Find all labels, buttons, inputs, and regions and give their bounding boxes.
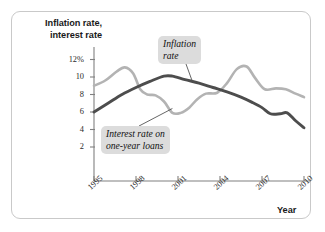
y-tick-label: 8 (54, 90, 84, 99)
y-tick-label: 2 (54, 142, 84, 151)
x-axis-title: Year (277, 205, 296, 215)
y-axis-title-line-1: Inflation rate, (18, 18, 102, 30)
callout-inflation-rate: Inflation rate (158, 36, 201, 64)
series-line-interest-rate (94, 66, 304, 114)
y-tick-label: 6 (54, 107, 84, 116)
y-tick-label: 4 (54, 125, 84, 134)
callout-leader-interest (139, 109, 172, 127)
chart-figure: Inflation rate, interest rate Year 24681… (0, 0, 325, 232)
callout-inflation-line-2: rate (163, 50, 196, 62)
y-axis-title-line-2: interest rate (18, 30, 102, 42)
callout-interest-line-2: one-year loans (106, 140, 165, 152)
callout-interest-line-1: Interest rate on (106, 128, 165, 140)
callout-inflation-line-1: Inflation (163, 38, 196, 50)
y-axis-title: Inflation rate, interest rate (18, 18, 102, 41)
y-tick-label: 12% (54, 55, 84, 64)
callout-leader-inflation (186, 64, 192, 81)
series-line-inflation-rate (94, 76, 304, 128)
y-tick-label: 10 (54, 72, 84, 81)
callout-interest-rate: Interest rate on one-year loans (101, 126, 170, 154)
